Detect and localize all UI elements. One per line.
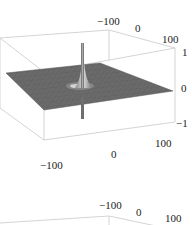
z-tick-neg1: −1 (176, 118, 188, 129)
x-tick-top-neg100: −100 (97, 16, 120, 27)
surface-plot-1-graphic (0, 0, 192, 180)
z-tick-1: 1 (182, 47, 188, 58)
x-tick-top-100-2: 100 (165, 213, 182, 224)
y-tick-bottom-0: 0 (111, 149, 117, 160)
y-tick-bottom-100: 100 (155, 138, 172, 149)
x-tick-top-0: 0 (135, 23, 141, 34)
z-tick-0: 0 (181, 83, 187, 94)
surface-plot-2-graphic (0, 180, 192, 225)
y-tick-bottom-neg100: −100 (40, 160, 63, 171)
surface-plot-1: −100 0 100 1 0 −1 100 0 −100 (0, 0, 192, 180)
x-tick-top-0-2: 0 (136, 207, 142, 218)
surface-plot-2: −100 0 100 (0, 180, 192, 225)
x-tick-top-neg100-2: −100 (99, 200, 122, 211)
x-tick-top-100: 100 (162, 34, 179, 45)
bounding-box-2 (0, 216, 175, 225)
